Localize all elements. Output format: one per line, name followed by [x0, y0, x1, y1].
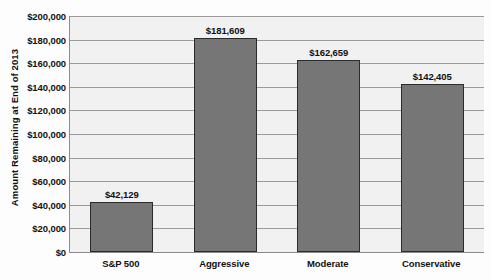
bar	[194, 38, 257, 252]
bar-group: $42,129	[90, 16, 153, 252]
bars-layer: $42,129$181,609$162,659$142,405	[70, 16, 484, 252]
x-axis-tick-label: S&P 500	[69, 258, 173, 269]
bar-group: $181,609	[194, 16, 257, 252]
bar	[297, 60, 360, 252]
bar-value-label: $181,609	[206, 25, 245, 36]
y-axis-tick-label: $40,000	[8, 199, 66, 210]
x-axis-tick-label: Aggressive	[173, 258, 277, 269]
y-axis-tick-labels: $0$20,000$40,000$60,000$80,000$100,000$1…	[8, 16, 66, 252]
x-axis-tick-label: Conservative	[380, 258, 484, 269]
y-axis-tick-label: $180,000	[8, 34, 66, 45]
y-axis-tick-label: $160,000	[8, 58, 66, 69]
y-axis-tick-label: $20,000	[8, 223, 66, 234]
x-axis-tick-label: Moderate	[276, 258, 380, 269]
bar-chart: on December 31, 2013, after a Year 2000 …	[0, 0, 491, 280]
y-axis-tick-label: $0	[8, 247, 66, 258]
plot-area: $42,129$181,609$162,659$142,405	[69, 16, 484, 253]
x-axis-tick-labels: S&P 500AggressiveModerateConservative	[69, 258, 483, 276]
bar-group: $162,659	[297, 16, 360, 252]
bar-value-label: $142,405	[413, 71, 452, 82]
bar-group: $142,405	[401, 16, 464, 252]
y-axis-tick-label: $80,000	[8, 152, 66, 163]
y-axis-tick-label: $200,000	[8, 11, 66, 22]
y-axis-tick-label: $140,000	[8, 81, 66, 92]
bar	[401, 84, 464, 252]
bar-value-label: $42,129	[105, 189, 139, 200]
bar-value-label: $162,659	[309, 47, 348, 58]
y-axis-tick-label: $100,000	[8, 129, 66, 140]
y-axis-tick-label: $120,000	[8, 105, 66, 116]
y-axis-tick-label: $60,000	[8, 176, 66, 187]
bar	[90, 202, 153, 252]
